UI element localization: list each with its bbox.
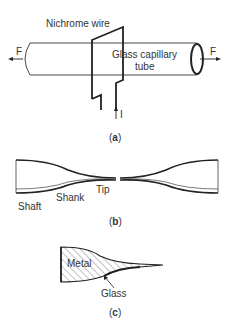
label-tube: tube <box>135 62 154 72</box>
caption-b: (b) <box>109 216 122 227</box>
force-left-arrowhead <box>8 57 13 61</box>
caption-c: (c) <box>109 307 121 318</box>
label-nichrome-wire: Nichrome wire <box>46 19 110 29</box>
label-shank: Shank <box>56 193 84 203</box>
label-metal: Metal <box>67 259 91 269</box>
label-current: I <box>120 110 123 120</box>
label-glass: Glass <box>101 289 127 299</box>
caption-a: (a) <box>109 132 121 143</box>
label-glass-capillary: Glass capillary <box>112 50 177 60</box>
label-force-right: F <box>210 47 216 57</box>
current-arrowhead <box>114 106 118 111</box>
label-tip: Tip <box>96 185 110 195</box>
force-right-arrowhead <box>216 57 221 61</box>
label-force-left: F <box>16 47 22 57</box>
panel-a-drawing <box>8 27 221 119</box>
label-shaft: Shaft <box>18 202 41 212</box>
panel-b-drawing <box>16 160 218 193</box>
